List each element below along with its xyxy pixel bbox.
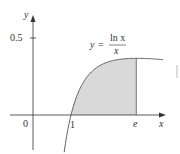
svg-text:=: = bbox=[98, 39, 104, 50]
svg-text:x: x bbox=[113, 45, 119, 56]
function-label: y = ln x x bbox=[89, 32, 126, 56]
svg-text:ln x: ln x bbox=[110, 32, 125, 43]
y-tick-label: 0.5 bbox=[10, 32, 23, 43]
svg-text:y: y bbox=[89, 39, 95, 50]
y-axis-label: y bbox=[23, 9, 29, 20]
x-axis-label: x bbox=[158, 118, 164, 129]
x-axis-arrow-icon bbox=[159, 113, 166, 118]
x-tick-label-1: 1 bbox=[70, 119, 75, 130]
x-tick-label-e: e bbox=[133, 118, 138, 129]
y-axis-arrow-icon bbox=[31, 15, 36, 22]
origin-label: 0 bbox=[23, 118, 28, 129]
chart-canvas: y 0.5 0 1 e x y = ln x x bbox=[0, 0, 180, 154]
